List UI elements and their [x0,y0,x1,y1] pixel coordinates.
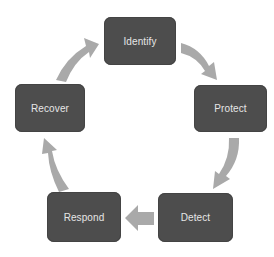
node-protect: Protect [194,85,267,132]
arrow-identify-to-protect [181,43,217,80]
cycle-diagram: Identify Protect Detect Respond Recover [0,0,274,257]
arrow-detect-to-respond [125,205,154,231]
node-detect: Detect [158,193,233,242]
node-identify-label: Identify [123,36,156,47]
node-identify: Identify [104,17,176,65]
node-protect-label: Protect [214,103,246,114]
node-recover-label: Recover [31,103,69,114]
node-respond: Respond [47,192,121,242]
arrow-recover-to-identify [56,38,99,82]
node-respond-label: Respond [64,212,105,223]
arrow-protect-to-detect [213,138,239,189]
arrow-respond-to-recover [42,138,69,192]
node-detect-label: Detect [181,212,211,223]
node-recover: Recover [15,84,85,132]
